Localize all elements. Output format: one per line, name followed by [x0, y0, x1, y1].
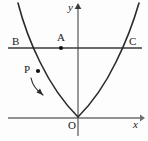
point-b-label: B: [12, 36, 19, 47]
geometry-figure: B A C P O x y: [0, 0, 148, 141]
point-p-label: P: [24, 64, 30, 75]
x-axis-arrowhead: [140, 115, 145, 122]
point-p-dot: [36, 69, 40, 73]
point-a-dot: [59, 46, 63, 50]
point-c-label: C: [129, 36, 136, 47]
point-a-label: A: [57, 32, 65, 43]
y-axis-arrowhead: [75, 3, 82, 9]
x-axis-label: x: [133, 119, 138, 130]
p-motion-arrow: [31, 78, 43, 95]
y-axis-label: y: [68, 2, 73, 13]
origin-label: O: [68, 120, 76, 131]
